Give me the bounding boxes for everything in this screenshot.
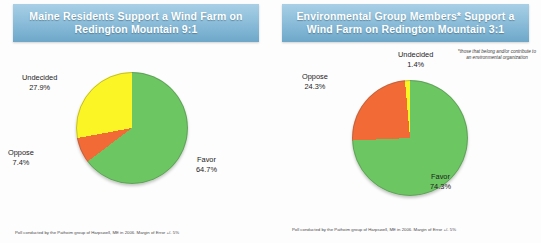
chart-title-left: Maine Residents Support a Wind Farm on R… bbox=[13, 10, 259, 36]
pie-chart-left-wrapper bbox=[76, 72, 188, 184]
chart-panel-maine-residents: Maine Residents Support a Wind Farm on R… bbox=[0, 0, 270, 243]
chart-title-banner-left: Maine Residents Support a Wind Farm on R… bbox=[13, 4, 259, 42]
slide-canvas: Maine Residents Support a Wind Farm on R… bbox=[0, 0, 541, 243]
pie-label-favor-right: Favor 74.3% bbox=[430, 172, 451, 192]
pie-label-oppose-left-value: 7.4% bbox=[8, 158, 34, 168]
footnote-asterisk-text: those that belong and/or contribute to a… bbox=[460, 49, 536, 60]
pie-label-oppose-left: Oppose 7.4% bbox=[8, 148, 34, 168]
pie-label-favor-left: Favor 64.7% bbox=[196, 155, 217, 175]
footnote-asterisk-right: *those that belong and/or contribute to … bbox=[458, 49, 536, 62]
chart-title-banner-right: Environmental Group Members* Support a W… bbox=[282, 4, 529, 42]
pie-label-favor-right-name: Favor bbox=[431, 172, 450, 181]
pie-label-undecided-right-value: 1.4% bbox=[398, 60, 433, 70]
source-note-right: Poll conducted by the Pathoim group of H… bbox=[292, 227, 456, 233]
source-note-left: Poll conducted by the Pathoim group of H… bbox=[15, 230, 179, 236]
pie-chart-left bbox=[76, 72, 188, 184]
pie-label-undecided-right-name: Undecided bbox=[398, 50, 433, 59]
pie-label-oppose-right-value: 24.3% bbox=[302, 82, 328, 92]
chart-title-right: Environmental Group Members* Support a W… bbox=[282, 10, 529, 36]
pie-label-favor-left-name: Favor bbox=[197, 155, 216, 164]
pie-label-undecided-left-name: Undecided bbox=[22, 73, 57, 82]
pie-label-undecided-left-value: 27.9% bbox=[22, 83, 57, 93]
pie-label-oppose-right-name: Oppose bbox=[302, 72, 328, 81]
pie-label-favor-right-value: 74.3% bbox=[430, 182, 451, 192]
pie-label-undecided-left: Undecided 27.9% bbox=[22, 73, 57, 93]
chart-panel-environmental-group: Environmental Group Members* Support a W… bbox=[270, 0, 541, 243]
pie-label-oppose-right: Oppose 24.3% bbox=[302, 72, 328, 92]
pie-label-favor-left-value: 64.7% bbox=[196, 165, 217, 175]
pie-label-undecided-right: Undecided 1.4% bbox=[398, 50, 433, 70]
pie-label-oppose-left-name: Oppose bbox=[8, 148, 34, 157]
